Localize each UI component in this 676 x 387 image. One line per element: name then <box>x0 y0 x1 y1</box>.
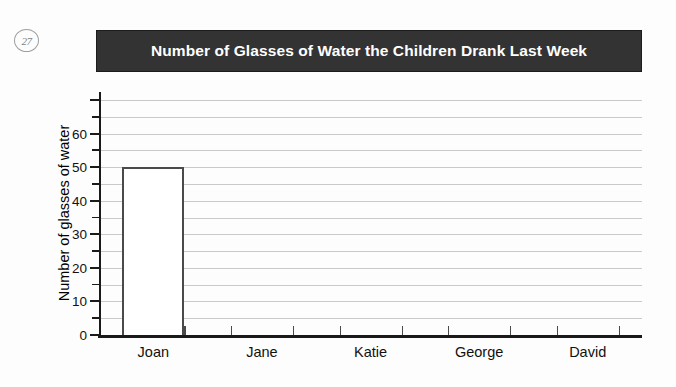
y-axis-tick-label: 30 <box>72 227 87 242</box>
x-axis-tick <box>402 326 403 335</box>
x-axis-label-jane: Jane <box>246 344 277 360</box>
x-axis-tick <box>231 326 232 335</box>
y-axis-tick-label: 10 <box>72 294 87 309</box>
x-axis-tick <box>448 326 449 335</box>
bar-joan <box>122 167 184 335</box>
x-axis-label-george: George <box>455 344 503 360</box>
gridline <box>100 134 642 135</box>
chart-plot-area: 0102030405060 JoanJaneKatieGeorgeDavid <box>99 92 642 337</box>
chart-title-banner: Number of Glasses of Water the Children … <box>96 30 642 72</box>
x-axis-tick <box>557 326 558 335</box>
x-axis-line <box>98 335 642 338</box>
y-axis-tick-label: 50 <box>72 160 87 175</box>
x-axis-label-katie: Katie <box>354 344 387 360</box>
x-axis-tick <box>293 326 294 335</box>
gridline <box>100 100 642 101</box>
gridline <box>100 117 642 118</box>
y-axis-tick-label: 40 <box>72 193 87 208</box>
chart-title: Number of Glasses of Water the Children … <box>151 42 587 60</box>
y-axis-tick-label: 0 <box>79 328 87 343</box>
x-axis-tick <box>340 326 341 335</box>
x-axis-tick <box>619 326 620 335</box>
x-axis-tick <box>122 326 123 335</box>
x-axis-label-david: David <box>569 344 606 360</box>
y-axis-line <box>99 92 101 337</box>
x-axis-tick <box>510 326 511 335</box>
y-axis-tick-label: 60 <box>72 126 87 141</box>
question-number-badge: 27 <box>14 29 39 52</box>
x-axis-label-joan: Joan <box>138 344 169 360</box>
x-axis-tick <box>184 326 185 335</box>
gridline <box>100 150 642 151</box>
y-axis-tick-label: 20 <box>72 260 87 275</box>
worksheet-page: 27 Number of Glasses of Water the Childr… <box>0 0 676 387</box>
